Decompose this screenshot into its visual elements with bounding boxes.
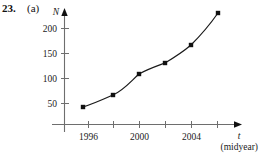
x-tick-label-2000: 2000 [130,132,149,142]
data-point [163,61,167,65]
y-tick-label-50: 50 [48,99,58,109]
y-axis-arrowhead [61,8,67,16]
data-point [111,93,115,97]
x-axis-tick-labels: 1996 2000 2004 [79,132,201,142]
data-point [81,105,85,109]
population-line-chart: 200 150 100 50 1996 2000 2004 N t (midye… [0,0,262,153]
x-axis [52,121,242,127]
data-points [81,11,220,109]
y-tick-label-200: 200 [43,24,58,34]
x-axis-title: t [238,131,241,141]
y-axis [61,8,67,132]
data-point [137,72,141,76]
y-tick-label-100: 100 [43,74,58,84]
data-curve [83,13,218,107]
x-axis-subtitle: (midyear) [221,142,258,153]
y-axis-title: N [52,7,60,17]
data-point [189,43,193,47]
data-point [216,11,220,15]
x-tick-label-1996: 1996 [79,132,98,142]
x-tick-label-2004: 2004 [182,132,201,142]
y-tick-label-150: 150 [43,49,58,59]
x-axis-arrowhead [234,121,242,127]
figure-container: 23. (a) 200 150 100 50 [0,0,262,153]
y-axis-tick-labels: 200 150 100 50 [43,24,58,109]
